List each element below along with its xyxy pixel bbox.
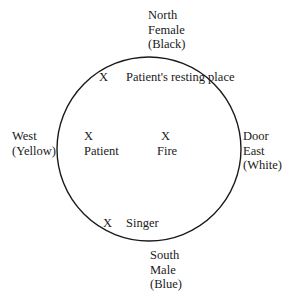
patient-marker: X xyxy=(84,129,93,143)
singer-marker: X xyxy=(103,216,112,230)
east-label: Door East (White) xyxy=(243,129,282,173)
south-color: (Blue) xyxy=(150,277,182,292)
west-direction: West xyxy=(12,129,56,144)
resting-place-marker: X xyxy=(99,70,108,84)
west-color: (Yellow) xyxy=(12,144,56,159)
north-label: North Female (Black) xyxy=(148,8,185,52)
north-direction: North xyxy=(148,8,185,23)
east-color: (White) xyxy=(243,158,282,173)
south-direction: South xyxy=(150,248,182,263)
singer-label: Singer xyxy=(126,216,159,231)
east-door: Door xyxy=(243,129,282,144)
south-gender: Male xyxy=(150,263,182,278)
north-gender: Female xyxy=(148,23,185,38)
north-color: (Black) xyxy=(148,37,185,52)
fire-label: Fire xyxy=(157,144,177,159)
east-direction: East xyxy=(243,144,282,159)
hogan-diagram: North Female (Black) X Patient's resting… xyxy=(0,0,296,300)
resting-place-label: Patient's resting place xyxy=(126,70,234,85)
fire-marker: X xyxy=(161,129,170,143)
patient-label: Patient xyxy=(84,144,119,159)
south-label: South Male (Blue) xyxy=(150,248,182,292)
west-label: West (Yellow) xyxy=(12,129,56,158)
